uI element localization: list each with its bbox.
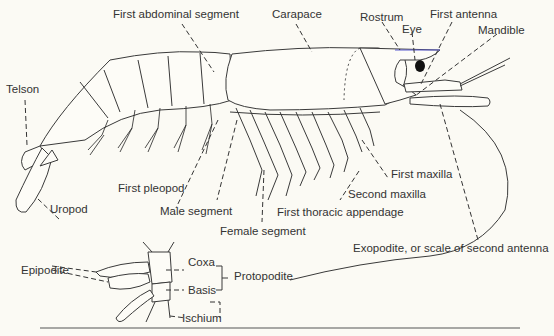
label-first-maxilla: First maxilla xyxy=(391,168,452,181)
shrimp-drawing xyxy=(0,0,554,336)
label-exopodite-scale: Exopodite, or scale of second antenna xyxy=(353,242,549,255)
shrimp-anatomy-figure: First abdominal segment Carapace Rostrum… xyxy=(0,0,554,336)
label-epipodite: Epipodite xyxy=(21,264,69,277)
label-first-thoracic-appendage: First thoracic appendage xyxy=(277,206,404,219)
label-second-maxilla: Second maxilla xyxy=(348,188,426,201)
label-eye: Eye xyxy=(402,23,422,36)
label-uropod: Uropod xyxy=(50,203,88,216)
label-first-abdominal-segment: First abdominal segment xyxy=(113,8,239,21)
label-coxa: Coxa xyxy=(188,256,215,269)
label-carapace: Carapace xyxy=(272,8,322,21)
label-basis: Basis xyxy=(188,284,216,297)
abdomen xyxy=(40,52,232,146)
inset-appendage xyxy=(52,242,228,322)
label-mandible: Mandible xyxy=(478,24,525,37)
label-rostrum: Rostrum xyxy=(360,11,403,24)
label-first-pleopod: First pleopod xyxy=(118,182,184,195)
label-ischium: Ischium xyxy=(182,312,222,325)
label-protopodite: Protopodite xyxy=(234,270,293,283)
eye-icon xyxy=(415,60,425,72)
label-female-segment: Female segment xyxy=(220,225,306,238)
label-first-antenna: First antenna xyxy=(430,8,497,21)
thoracic-legs xyxy=(230,108,380,200)
label-male-segment: Male segment xyxy=(160,205,232,218)
label-telson: Telson xyxy=(6,83,39,96)
